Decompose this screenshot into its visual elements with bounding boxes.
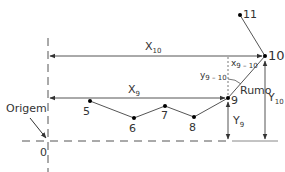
- point-label-10: 10: [268, 48, 285, 63]
- point-8: [192, 115, 196, 119]
- x9-label: X9: [128, 83, 140, 98]
- dy-label: y9 – 10: [200, 70, 227, 82]
- point-label-8: 8: [189, 121, 196, 134]
- origin-zero: 0: [40, 146, 47, 159]
- point-label-6: 6: [129, 122, 136, 135]
- origin-arrow: [30, 118, 46, 138]
- point-label-9: 9: [231, 94, 238, 107]
- point-7: [163, 104, 167, 108]
- x10-label: X10: [145, 40, 161, 55]
- point-9: [226, 96, 230, 100]
- point-label-5: 5: [83, 105, 90, 118]
- bearing-label: Rumo: [240, 84, 272, 97]
- point-label-7: 7: [161, 109, 168, 122]
- point-11: [238, 13, 242, 17]
- point-6: [132, 116, 136, 120]
- y9-label: Y9: [232, 114, 244, 129]
- origin-label: Origem: [6, 102, 47, 115]
- point-label-11: 11: [243, 8, 257, 21]
- point-5: [88, 99, 92, 103]
- dx-label: x9 – 10: [231, 58, 258, 70]
- traverse-diagram: Origem 0 X10 X9 Y9 Y10 x9 – 10 y9 – 10 R…: [0, 0, 285, 172]
- point-10: [263, 54, 267, 58]
